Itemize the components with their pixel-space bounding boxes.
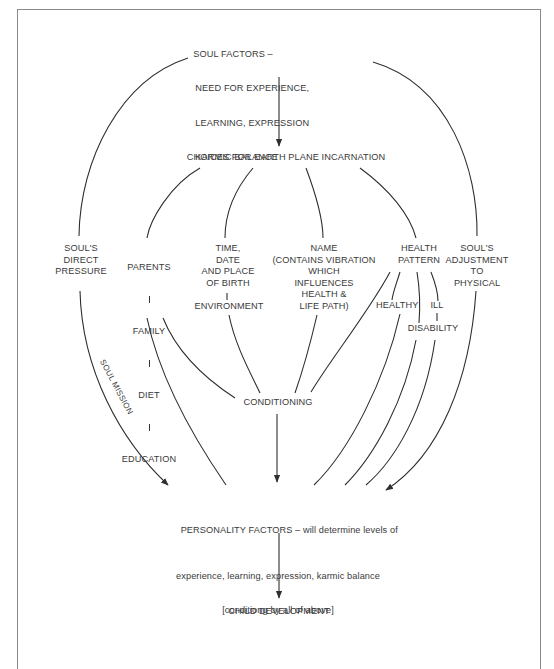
edge-health-to-healthy (392, 272, 400, 300)
family-diet-link (149, 360, 150, 367)
soul-factors-line-2: LEARNING, EXPRESSION (195, 118, 309, 130)
edge-health-to-ill (431, 272, 438, 301)
edge-environment-to-conditioning (229, 315, 260, 393)
node-health-pattern: HEALTH PATTERN (390, 243, 448, 266)
node-environment: ENVIRONMENT (190, 301, 268, 313)
node-time-date-place: TIME, DATE AND PLACE OF BIRTH (192, 243, 264, 289)
edge-soul-to-direct-pressure (79, 58, 188, 236)
node-souls-adjustment: SOUL'S ADJUSTMENT TO PHYSICAL (444, 243, 510, 289)
diet-education-link (149, 424, 150, 431)
personality-factors-line-2: experience, learning, expression, karmic… (170, 571, 386, 583)
personality-factors-title: PERSONALITY FACTORS (181, 525, 293, 535)
edge-healthy-to-personality (314, 314, 400, 485)
node-name: NAME (CONTAINS VIBRATION WHICH INFLUENCE… (266, 243, 382, 312)
node-parents: PARENTS (114, 262, 184, 273)
node-parents-chain: PARENTS FAMILY DIET EDUCATION (114, 240, 184, 476)
edge-health-to-disability (417, 272, 420, 323)
edge-choices-to-health (360, 168, 416, 238)
parents-family-link (149, 296, 150, 303)
personality-factors-line-1: – will determine levels of (292, 525, 397, 535)
node-conditioning: CONDITIONING (236, 397, 320, 409)
node-family: FAMILY (114, 326, 184, 337)
node-soul-factors: SOUL FACTORS – NEED FOR EXPERIENCE, LEAR… (188, 37, 309, 187)
node-souls-direct-pressure: SOUL'S DIRECT PRESSURE (51, 243, 111, 278)
node-choices-for-earth-plane: CHOICES FOR EARTH PLANE INCARNATION (186, 152, 386, 164)
node-child-development: CHILD DEVELOPMENT (220, 606, 338, 618)
edge-adjustment-to-personality (386, 291, 476, 490)
figure-caption-cutoff (20, 652, 320, 658)
soul-factors-line-1: NEED FOR EXPERIENCE, (195, 83, 309, 95)
node-ill: ILL (429, 300, 445, 312)
node-disability: DISABILITY (405, 323, 461, 335)
edge-name-to-conditioning (295, 315, 317, 393)
edge-soul-to-adjustment (373, 62, 477, 236)
node-healthy: HEALTHY (376, 300, 418, 312)
soul-factors-prefix: SOUL FACTORS – (193, 49, 273, 59)
node-education: EDUCATION (114, 454, 184, 465)
edge-disability-to-personality (345, 340, 416, 485)
edge-ill-to-personality (366, 340, 435, 485)
